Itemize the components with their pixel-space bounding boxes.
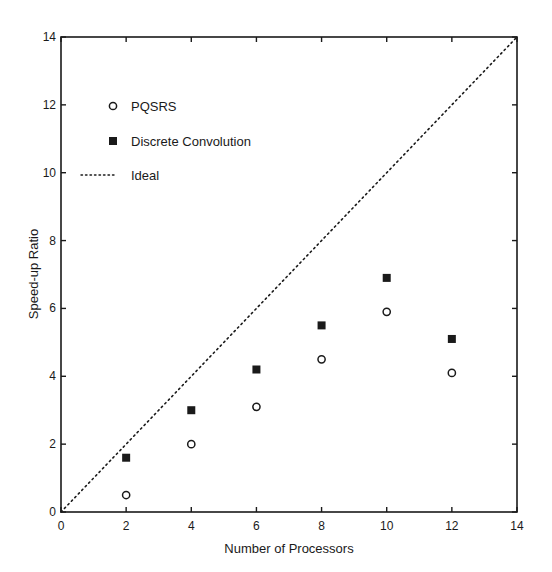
x-tick-label: 12 [445, 519, 459, 533]
y-tick-label: 6 [49, 301, 56, 315]
legend-label: Discrete Convolution [131, 134, 251, 149]
discrete-convolution-point [318, 321, 326, 329]
discrete-convolution-point [383, 274, 391, 282]
x-tick-label: 8 [318, 519, 325, 533]
x-axis-label: Number of Processors [224, 541, 354, 556]
x-tick-label: 6 [253, 519, 260, 533]
y-tick-label: 14 [43, 30, 57, 44]
pqsrs-point [448, 369, 455, 376]
y-tick-label: 2 [49, 437, 56, 451]
y-tick-label: 12 [43, 98, 57, 112]
discrete-convolution-point [122, 454, 130, 462]
y-axis-label: Speed-up Ratio [26, 229, 41, 319]
speedup-chart: 0246810121402468101214 Number of Process… [0, 0, 552, 572]
plot-area [61, 37, 517, 512]
pqsrs-point [318, 356, 325, 363]
x-tick-label: 4 [188, 519, 195, 533]
x-tick-label: 10 [380, 519, 394, 533]
discrete-convolution-point [448, 335, 456, 343]
pqsrs-point [188, 441, 195, 448]
y-tick-label: 8 [49, 234, 56, 248]
legend-label: Ideal [131, 168, 159, 183]
pqsrs-point [123, 491, 130, 498]
legend-label: PQSRS [131, 99, 177, 114]
legend-circle-icon [109, 102, 116, 109]
x-tick-label: 2 [123, 519, 130, 533]
y-tick-label: 4 [49, 369, 56, 383]
legend: PQSRSDiscrete ConvolutionIdeal [81, 99, 251, 183]
x-tick-label: 0 [58, 519, 65, 533]
y-tick-label: 0 [49, 505, 56, 519]
ideal-line [61, 37, 517, 512]
y-tick-label: 10 [43, 166, 57, 180]
pqsrs-point [253, 403, 260, 410]
discrete-convolution-point [252, 366, 260, 374]
discrete-convolution-point [187, 406, 195, 414]
legend-square-icon [109, 137, 117, 145]
x-tick-label: 14 [510, 519, 524, 533]
pqsrs-point [383, 308, 390, 315]
